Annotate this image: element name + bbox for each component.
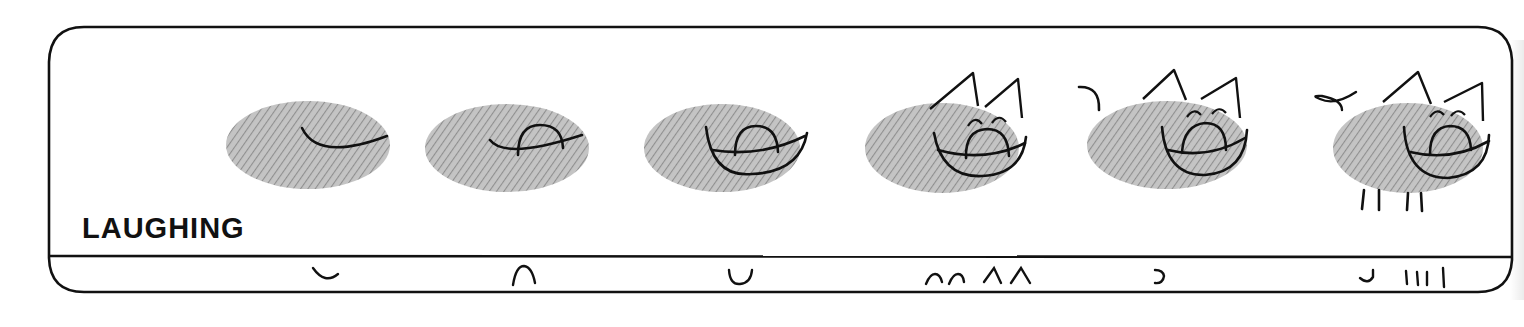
page-edge-shadow	[1510, 40, 1524, 300]
key-divider	[49, 256, 1512, 257]
fingerprint-blob	[1087, 101, 1247, 189]
stroke-key	[313, 266, 1444, 287]
key-glyph-2	[513, 266, 535, 285]
step-1-drawing	[226, 101, 390, 189]
key-glyph-6a	[1360, 270, 1373, 281]
tail-stroke	[1079, 87, 1099, 110]
legs-strokes	[1362, 190, 1422, 211]
step-2-drawing	[425, 104, 589, 192]
key-glyph-1	[313, 268, 338, 278]
key-glyph-4a	[926, 274, 942, 284]
key-glyph-4b	[949, 274, 964, 284]
instruction-panel	[0, 0, 1524, 327]
fingerprint-blob	[226, 101, 390, 189]
step-6-drawing	[1315, 72, 1489, 211]
panel-title: LAUGHING	[82, 212, 245, 245]
left-ear-stroke	[1383, 72, 1431, 104]
key-glyph-6b	[1406, 268, 1444, 287]
key-glyph-5	[1155, 270, 1164, 283]
step-3-drawing	[644, 104, 807, 192]
right-ear-stroke	[985, 79, 1022, 118]
key-glyph-4d	[1011, 268, 1030, 283]
key-glyph-4c	[984, 268, 1001, 283]
curly-tail-stroke	[1315, 92, 1356, 110]
key-glyph-3	[729, 270, 752, 284]
fingerprint-blob	[865, 103, 1019, 193]
step-4-drawing	[865, 73, 1026, 193]
step-5-drawing	[1079, 70, 1247, 189]
left-ear-stroke	[1143, 70, 1186, 100]
